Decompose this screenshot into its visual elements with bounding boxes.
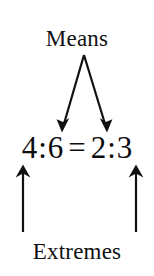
- equation-term-6: 6: [48, 130, 64, 165]
- diagram-canvas: Means 4:6=2:3 Extremes: [0, 0, 154, 276]
- means-label: Means: [0, 27, 154, 50]
- means-arrow-left-shaft: [64, 55, 85, 126]
- extremes-arrow-left-head-icon: [16, 165, 31, 178]
- equation-equals-sign: =: [63, 130, 90, 165]
- extremes-arrows-group: [16, 165, 144, 233]
- equation-term-3: 3: [117, 130, 133, 165]
- equation-term-4: 4: [22, 130, 38, 165]
- extremes-label: Extremes: [0, 240, 154, 263]
- proportion-equation: 4:6=2:3: [0, 132, 154, 163]
- means-arrow-right-shaft: [84, 55, 106, 126]
- means-arrows-group: [57, 55, 113, 133]
- equation-colon-right: :: [106, 130, 117, 165]
- equation-term-2: 2: [91, 130, 107, 165]
- extremes-arrow-right-head-icon: [129, 165, 144, 178]
- equation-colon-left: :: [37, 130, 48, 165]
